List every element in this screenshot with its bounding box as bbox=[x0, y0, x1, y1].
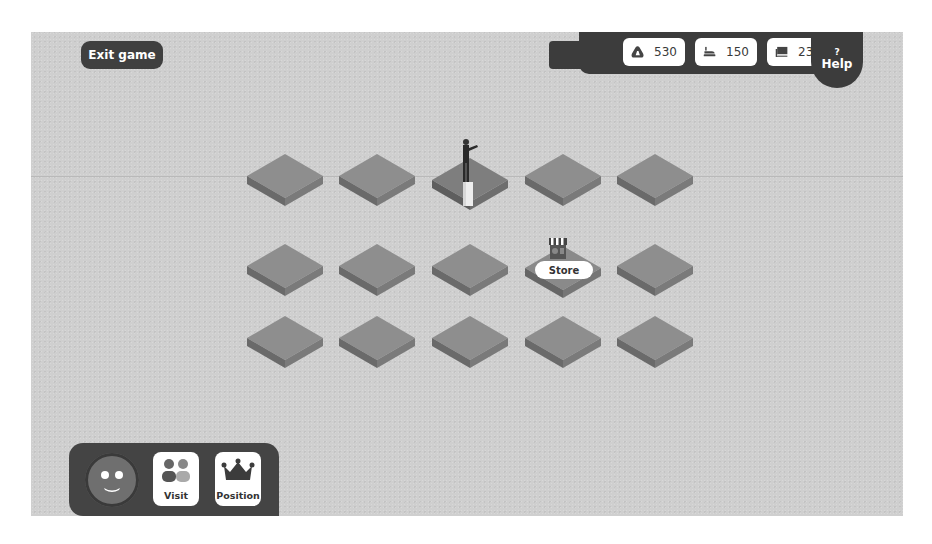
resource-iron-value: 150 bbox=[726, 45, 749, 59]
board-tile-r2-c1[interactable] bbox=[339, 316, 415, 370]
iron-icon bbox=[703, 45, 716, 59]
help-button[interactable]: ? Help bbox=[811, 32, 863, 88]
board-tile-r2-c2[interactable] bbox=[432, 316, 508, 370]
book-icon bbox=[775, 45, 788, 59]
position-label: Position bbox=[216, 490, 260, 501]
store-label[interactable]: Store bbox=[535, 261, 593, 279]
board-tile-r1-c0[interactable] bbox=[247, 244, 323, 298]
people-icon bbox=[160, 458, 192, 484]
store-icon bbox=[547, 238, 569, 260]
board-tile-r1-c4[interactable] bbox=[617, 244, 693, 298]
game-stage: Exit game 530 150 bbox=[31, 32, 903, 516]
board-tile-r1-c2[interactable] bbox=[432, 244, 508, 298]
crown-icon bbox=[221, 458, 255, 482]
smiley-avatar-icon bbox=[85, 453, 139, 507]
player-character[interactable] bbox=[457, 136, 481, 208]
visit-label: Visit bbox=[164, 490, 188, 501]
player-panel: Visit Position bbox=[69, 443, 279, 516]
position-button[interactable]: Position bbox=[215, 452, 261, 506]
board-tile-r2-c0[interactable] bbox=[247, 316, 323, 370]
resource-iron: 150 bbox=[695, 38, 757, 66]
visit-button[interactable]: Visit bbox=[153, 452, 199, 506]
resource-bar-body: 530 150 235 bbox=[579, 32, 829, 74]
board-tile-r2-c4[interactable] bbox=[617, 316, 693, 370]
avatar[interactable] bbox=[85, 453, 139, 507]
board-tile-r2-c3[interactable] bbox=[525, 316, 601, 370]
exit-game-button[interactable]: Exit game bbox=[81, 41, 163, 69]
resource-stone-value: 530 bbox=[654, 45, 677, 59]
board-tile-r0-c1[interactable] bbox=[339, 154, 415, 208]
help-label: Help bbox=[822, 58, 853, 71]
board-tile-r0-c0[interactable] bbox=[247, 154, 323, 208]
board-tile-r0-c3[interactable] bbox=[525, 154, 601, 208]
resource-stone: 530 bbox=[623, 38, 685, 66]
stone-icon bbox=[631, 45, 644, 59]
board-tile-r0-c4[interactable] bbox=[617, 154, 693, 208]
board-tile-r1-c1[interactable] bbox=[339, 244, 415, 298]
resource-bar: 530 150 235 ? Help bbox=[549, 32, 863, 78]
